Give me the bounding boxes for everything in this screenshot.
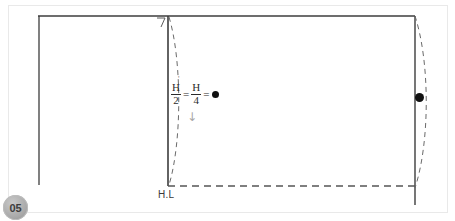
fraction-denominator: 4 [192,95,200,107]
diagram-svg [0,0,455,221]
down-arrow-icon: ↓ [187,111,197,123]
right-dot-icon [415,93,424,102]
fraction-numerator: H [171,82,181,95]
corner-tick-icon [157,18,165,27]
slide-number-badge: 05 [3,195,28,220]
horizon-line-label: H.L [158,189,174,200]
fraction-h-over-2: H 2 [171,82,181,106]
center-dot-icon [212,91,219,98]
height-division-formula: H 2 = H 4 = [171,82,219,106]
right-dashed-curve [415,16,426,188]
slide-canvas: ' H 2 = H 4 = ↓ H.L 05 [0,0,455,221]
equals-sign-2: = [201,89,211,100]
fraction-h-over-4: H 4 [191,82,201,106]
fraction-numerator: H [191,82,201,95]
equals-sign-1: = [181,89,191,100]
fraction-denominator: 2 [172,95,180,107]
